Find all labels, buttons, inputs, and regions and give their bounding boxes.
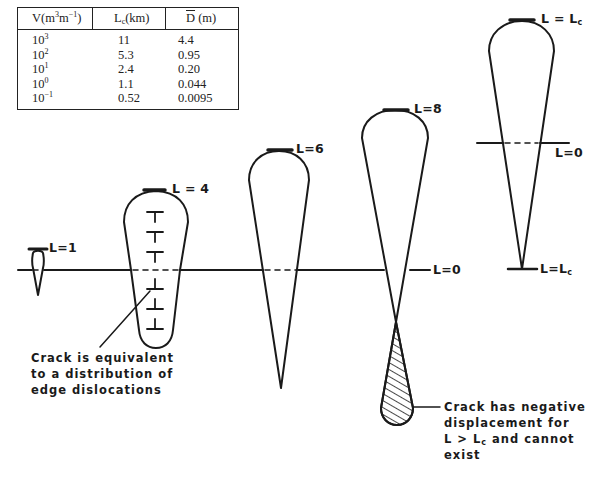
crack-l8: [362, 110, 428, 425]
label-l4: L = 4: [172, 181, 209, 196]
annotation-line: L > Lc and cannot: [444, 431, 586, 447]
edge-dislocations-upper: [147, 212, 163, 262]
annotation-line: Crack has negative: [444, 399, 586, 415]
annotation-line: displacement for: [444, 415, 586, 431]
edge-dislocations-lower: [147, 279, 163, 329]
crack-l4: [124, 190, 188, 348]
label-lc-top: L = Lc: [541, 11, 583, 26]
label-l1: L=1: [49, 240, 77, 255]
label-l0-right: L=0: [555, 145, 583, 160]
crack-l1: [29, 249, 47, 295]
label-l8: L=8: [414, 101, 442, 116]
annotation-negative-displacement: Crack has negative displacement for L > …: [444, 399, 586, 463]
annotation-line: to a distribution of: [31, 366, 174, 382]
label-l6: L=6: [296, 141, 324, 156]
annotation-crack-equivalent: Crack is equivalent to a distribution of…: [31, 350, 174, 398]
negative-displacement-lobe: [381, 322, 413, 425]
leader-line-dislocations: [100, 291, 150, 347]
annotation-line: exist: [444, 447, 586, 463]
annotation-line: edge dislocations: [31, 382, 174, 398]
annotation-line: Crack is equivalent: [31, 350, 174, 366]
label-l0-main: L=0: [433, 262, 461, 277]
label-lc-bottom: L=Lc: [540, 261, 572, 276]
